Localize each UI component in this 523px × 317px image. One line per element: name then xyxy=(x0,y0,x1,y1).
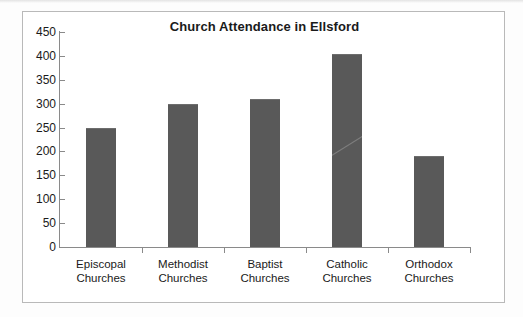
y-axis-tick xyxy=(60,175,65,176)
x-axis-tick xyxy=(388,248,389,253)
category-label: BaptistChurches xyxy=(224,257,306,285)
bar-episcopal-churches xyxy=(86,128,116,247)
x-axis-tick xyxy=(470,248,471,253)
y-axis-tick-label: 350 xyxy=(23,74,56,86)
x-axis-tick xyxy=(142,248,143,253)
y-axis-tick-value: 200 xyxy=(26,145,56,157)
y-axis-tick xyxy=(60,128,65,129)
y-axis-tick-label: 200 xyxy=(23,145,56,157)
bar-baptist-churches xyxy=(250,99,280,247)
y-axis-tick-value: 250 xyxy=(26,122,56,134)
y-axis-tick xyxy=(60,199,65,200)
y-axis-tick xyxy=(60,151,65,152)
y-axis-line xyxy=(59,31,60,248)
y-axis-tick xyxy=(60,104,65,105)
chart-title: Church Attendance in Ellsford xyxy=(23,19,506,34)
y-axis-tick xyxy=(60,80,65,81)
x-axis-tick xyxy=(306,248,307,253)
category-label: CatholicChurches xyxy=(306,257,388,285)
y-axis-tick xyxy=(60,223,65,224)
category-label: OrthodoxChurches xyxy=(388,257,470,285)
y-axis-tick-value: 400 xyxy=(26,50,56,62)
y-axis-tick-label: 150 xyxy=(23,169,56,181)
chart-frame: Church Attendance in Ellsford 4504003503… xyxy=(22,11,505,303)
y-axis-tick xyxy=(60,247,65,248)
y-axis-tick-label: 300 xyxy=(23,98,56,110)
y-axis-tick-label: 450 xyxy=(23,26,56,38)
y-axis-tick-label: 100 xyxy=(23,193,56,205)
bar-methodist-churches xyxy=(168,104,198,247)
y-axis-tick-value: 450 xyxy=(26,26,56,38)
y-axis-tick-label: 400 xyxy=(23,50,56,62)
y-axis-tick-value: 300 xyxy=(26,98,56,110)
x-axis-tick xyxy=(224,248,225,253)
bar-orthodox-churches xyxy=(414,156,444,247)
category-label: MethodistChurches xyxy=(142,257,224,285)
y-axis-tick-value: 100 xyxy=(26,193,56,205)
y-axis-tick-label: 250 xyxy=(23,122,56,134)
y-axis-tick-label: 0 xyxy=(23,241,56,253)
y-axis-tick-value: 350 xyxy=(26,74,56,86)
x-axis-line xyxy=(59,247,471,248)
y-axis-tick-value: 0 xyxy=(26,241,56,253)
chart-screenshot: Church Attendance in Ellsford 4504003503… xyxy=(0,0,523,317)
bar-catholic-churches xyxy=(332,54,362,248)
y-axis-tick xyxy=(60,56,65,57)
y-axis-tick-value: 50 xyxy=(26,217,56,229)
page-edge-shadow xyxy=(0,0,523,3)
y-axis-tick xyxy=(60,32,65,33)
scan-artifact xyxy=(311,131,371,169)
y-axis-tick-value: 150 xyxy=(26,169,56,181)
y-axis-tick-label: 50 xyxy=(23,217,56,229)
category-label: EpiscopalChurches xyxy=(60,257,142,285)
